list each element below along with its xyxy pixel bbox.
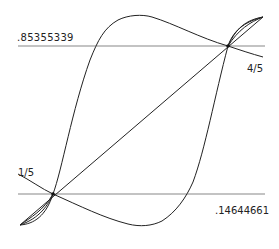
fixed-point-high-label: 4/5 xyxy=(247,64,263,74)
fixed-point-low-marker xyxy=(51,192,55,196)
upper-value-label: .85355339 xyxy=(17,33,74,43)
lower-value-label: .14644661 xyxy=(215,206,269,216)
fixed-point-high-marker xyxy=(226,44,230,48)
fixed-point-low-label: 1/5 xyxy=(18,168,34,178)
